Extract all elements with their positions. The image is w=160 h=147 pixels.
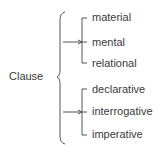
option-label: material	[92, 11, 131, 23]
option-label: interrogative	[92, 105, 153, 117]
curly-brace	[57, 12, 65, 144]
option-label: relational	[92, 57, 137, 69]
option-label: mental	[92, 36, 125, 48]
option-label: imperative	[92, 128, 143, 140]
option-label: declarative	[92, 83, 145, 95]
root-label: Clause	[9, 70, 43, 82]
